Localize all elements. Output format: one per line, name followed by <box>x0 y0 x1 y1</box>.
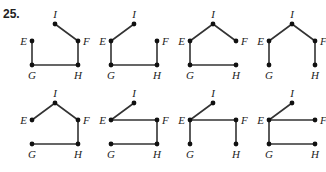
vertex-label-h: H <box>73 148 83 160</box>
vertex-i <box>53 101 58 106</box>
vertex-f <box>76 118 81 123</box>
vertex-g <box>188 63 193 68</box>
vertex-label-g: G <box>107 148 115 160</box>
vertex-label-f: F <box>319 114 326 126</box>
vertex-f <box>155 39 160 44</box>
vertex-label-e: E <box>177 35 185 47</box>
vertex-label-e: E <box>98 114 106 126</box>
vertex-label-f: F <box>82 114 90 126</box>
vertex-label-e: E <box>256 114 264 126</box>
vertex-label-g: G <box>28 148 36 160</box>
vertex-label-f: F <box>240 114 248 126</box>
vertex-label-i: I <box>131 87 137 99</box>
vertex-i <box>290 101 295 106</box>
vertex-h <box>155 63 160 68</box>
vertex-f <box>313 118 318 123</box>
vertex-label-g: G <box>265 69 273 81</box>
graph-8: IEFGH <box>256 87 326 160</box>
vertex-e <box>109 118 114 123</box>
vertex-g <box>267 63 272 68</box>
vertex-e <box>188 118 193 123</box>
vertex-e <box>30 39 35 44</box>
edge-e-i <box>32 103 55 120</box>
edge-e-i <box>111 24 134 41</box>
vertex-label-h: H <box>310 148 320 160</box>
vertex-label-e: E <box>19 35 27 47</box>
spanning-trees-figure: IEFGHIEFGHIEFGHIEFGHIEFGHIEFGHIEFGHIEFGH <box>0 0 326 172</box>
vertex-label-i: I <box>289 87 295 99</box>
vertex-label-i: I <box>210 87 216 99</box>
vertex-label-i: I <box>289 8 295 20</box>
edge-e-i <box>190 103 213 120</box>
vertex-f <box>313 39 318 44</box>
edge-i-f <box>292 24 315 41</box>
vertex-f <box>234 39 239 44</box>
graph-6: IEFGH <box>98 87 169 160</box>
vertex-i <box>132 101 137 106</box>
vertex-e <box>188 39 193 44</box>
graph-7: IEFGH <box>177 87 248 160</box>
vertex-label-i: I <box>210 8 216 20</box>
vertex-h <box>234 63 239 68</box>
vertex-f <box>76 39 81 44</box>
vertex-label-f: F <box>319 35 326 47</box>
vertex-label-e: E <box>98 35 106 47</box>
vertex-h <box>76 142 81 147</box>
graph-4: IEFGH <box>256 8 326 81</box>
vertex-label-h: H <box>152 148 162 160</box>
vertex-label-g: G <box>28 69 36 81</box>
graph-3: IEFGH <box>177 8 248 81</box>
vertex-label-f: F <box>161 114 169 126</box>
vertex-label-i: I <box>52 87 58 99</box>
graph-1: IEFGH <box>19 8 90 81</box>
vertex-label-e: E <box>256 35 264 47</box>
vertex-h <box>313 63 318 68</box>
graph-5: IEFGH <box>19 87 90 160</box>
edge-i-f <box>213 24 236 41</box>
vertex-g <box>30 142 35 147</box>
vertex-label-g: G <box>186 148 194 160</box>
vertex-h <box>76 63 81 68</box>
graph-2: IEFGH <box>98 8 169 81</box>
vertex-e <box>30 118 35 123</box>
vertex-label-g: G <box>265 148 273 160</box>
vertex-label-g: G <box>107 69 115 81</box>
vertex-h <box>234 142 239 147</box>
vertex-g <box>267 142 272 147</box>
edge-i-f <box>55 24 78 41</box>
vertex-label-f: F <box>82 35 90 47</box>
vertex-f <box>234 118 239 123</box>
vertex-label-g: G <box>186 69 194 81</box>
vertex-g <box>109 142 114 147</box>
vertex-label-h: H <box>231 148 241 160</box>
vertex-i <box>211 22 216 27</box>
edge-e-i <box>111 103 134 120</box>
vertex-g <box>188 142 193 147</box>
vertex-i <box>211 101 216 106</box>
edge-e-i <box>269 103 292 120</box>
vertex-f <box>155 118 160 123</box>
edge-e-i <box>269 24 292 41</box>
vertex-h <box>313 142 318 147</box>
vertex-label-f: F <box>240 35 248 47</box>
vertex-label-f: F <box>161 35 169 47</box>
vertex-label-h: H <box>310 69 320 81</box>
vertex-label-e: E <box>19 114 27 126</box>
vertex-label-i: I <box>52 8 58 20</box>
vertex-g <box>109 63 114 68</box>
vertex-label-h: H <box>152 69 162 81</box>
vertex-i <box>290 22 295 27</box>
vertex-label-h: H <box>73 69 83 81</box>
vertex-i <box>53 22 58 27</box>
vertex-label-e: E <box>177 114 185 126</box>
edge-e-i <box>190 24 213 41</box>
vertex-i <box>132 22 137 27</box>
edge-i-f <box>55 103 78 120</box>
vertex-e <box>267 118 272 123</box>
vertex-e <box>109 39 114 44</box>
vertex-e <box>267 39 272 44</box>
vertex-h <box>155 142 160 147</box>
vertex-label-h: H <box>231 69 241 81</box>
vertex-label-i: I <box>131 8 137 20</box>
vertex-g <box>30 63 35 68</box>
